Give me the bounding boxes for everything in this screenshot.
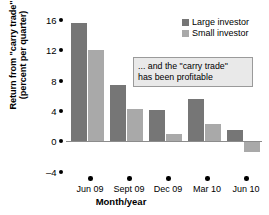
y-axis-tick-label-12: 12	[46, 45, 57, 56]
y-axis-tick-minus-4: –4	[0, 167, 66, 177]
y-axis-tick-label-8: 8	[51, 76, 56, 87]
legend-label-small-investor: Small investor	[192, 28, 249, 38]
bar-small-sept-09	[127, 109, 143, 141]
x-axis-tick-dot-mar-10	[205, 176, 210, 181]
tick-dot-icon	[59, 18, 64, 23]
bar-chart: Return from "carry trade" (percent per q…	[0, 0, 269, 215]
legend-item-large-investor: Large investor	[182, 17, 249, 27]
annotation-line-1: ... and the "carry trade"	[138, 61, 248, 72]
y-axis-tick-12: 12	[0, 45, 66, 55]
bar-small-dec-09	[166, 134, 182, 141]
legend-swatch-icon-large	[182, 19, 189, 26]
y-axis-tick-label-minus-4: –4	[46, 167, 57, 178]
x-axis-tick-dot-jun-09	[88, 176, 93, 181]
y-axis-tick-label-16: 16	[46, 15, 57, 26]
bar-large-sept-09	[110, 85, 126, 141]
x-axis-label-jun-09: Jun 09	[76, 184, 103, 194]
x-axis-tick-dot-sept-09	[127, 176, 132, 181]
legend-item-small-investor: Small investor	[182, 28, 249, 38]
bar-large-mar-10	[188, 99, 204, 141]
annotation-line-2: has been profitable	[138, 72, 248, 83]
x-axis-label-dec-09: Dec 09	[154, 184, 183, 194]
x-axis-label-sept-09: Sept 09	[113, 184, 144, 194]
bar-small-jun-09	[88, 50, 104, 141]
bar-large-dec-09	[149, 110, 165, 141]
y-axis-tick-label-4: 4	[51, 106, 56, 117]
x-axis-label-jun-10: Jun 10	[232, 184, 259, 194]
x-axis-title: Month/year	[66, 196, 176, 207]
annotation-callout: ... and the "carry trade" has been profi…	[133, 57, 253, 87]
bar-small-mar-10	[205, 124, 221, 141]
legend-swatch-icon-small	[182, 30, 189, 37]
plot-area	[66, 20, 262, 172]
legend-label-large-investor: Large investor	[192, 17, 249, 27]
bar-large-jun-10	[227, 130, 243, 141]
y-axis-tick-0: 0	[0, 136, 66, 146]
y-axis-tick-16: 16	[0, 15, 66, 25]
zero-baseline	[66, 141, 262, 142]
y-axis-tick-4: 4	[0, 106, 66, 116]
chart-legend: Large investor Small investor	[182, 17, 249, 38]
y-axis-tick-8: 8	[0, 76, 66, 86]
tick-dot-icon	[59, 79, 64, 84]
x-axis-tick-dot-jun-10	[244, 176, 249, 181]
x-axis-tick-dot-dec-09	[166, 176, 171, 181]
bar-small-jun-10	[244, 142, 260, 152]
tick-dot-icon	[59, 139, 64, 144]
y-axis-tick-label-0: 0	[51, 136, 56, 147]
tick-dot-icon	[59, 109, 64, 114]
tick-dot-icon	[59, 170, 64, 175]
x-axis-label-mar-10: Mar 10	[193, 184, 221, 194]
bar-large-jun-09	[71, 23, 87, 141]
tick-dot-icon	[59, 48, 64, 53]
